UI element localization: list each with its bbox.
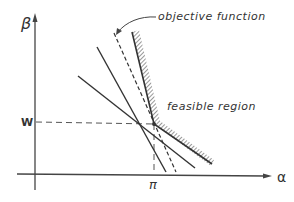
objective-function-label: objective function (158, 11, 266, 22)
x-axis (17, 174, 272, 179)
x-axis-label: α (277, 170, 286, 184)
y-axis (33, 13, 38, 190)
y-axis-label: β (21, 16, 32, 32)
pi-tick-label: π (149, 178, 157, 191)
optimum-point (152, 122, 156, 126)
feasible-boundary (132, 30, 214, 166)
feasible-region-label: feasible region (167, 101, 256, 112)
w-tick-label: W (21, 117, 33, 128)
constraint-line-1 (78, 76, 195, 168)
